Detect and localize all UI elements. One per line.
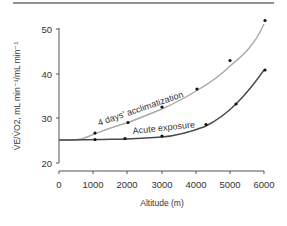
x-tick-4000: 4000 <box>185 179 206 190</box>
x-tick-6000: 6000 <box>253 179 274 190</box>
acute-exposure-label: Acute exposure <box>132 120 195 136</box>
x-tick-2000: 2000 <box>116 179 137 190</box>
line-chart: 50 40 30 20 V̇E/V̇O2, mL min⁻¹/mL min⁻¹ … <box>0 0 287 226</box>
x-tick-3000: 3000 <box>151 179 172 190</box>
y-axis: 50 40 30 20 V̇E/V̇O2, mL min⁻¹/mL min⁻¹ <box>12 24 59 169</box>
x-axis: 0 1000 2000 3000 4000 5000 6000 Altitude… <box>56 171 274 208</box>
y-tick-40: 40 <box>41 69 52 80</box>
y-tick-20: 20 <box>41 158 52 169</box>
x-tick-5000: 5000 <box>219 179 240 190</box>
x-tick-1000: 1000 <box>82 179 103 190</box>
y-axis-label: V̇E/V̇O2, mL min⁻¹/mL min⁻¹ <box>12 42 22 151</box>
y-tick-50: 50 <box>41 24 52 35</box>
y-tick-30: 30 <box>41 113 52 124</box>
x-axis-label: Altitude (m) <box>140 198 184 208</box>
x-tick-0: 0 <box>56 179 61 190</box>
